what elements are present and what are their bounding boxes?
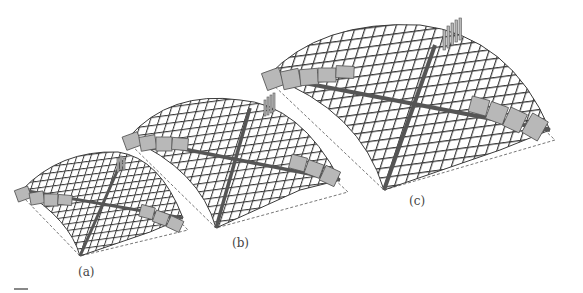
panel-label-a: (a) — [78, 265, 95, 279]
caption-fragment — [14, 288, 28, 290]
vault-figure — [0, 0, 583, 293]
panel-label-c: (c) — [409, 194, 425, 208]
panel-label-b: (b) — [232, 236, 249, 250]
vault-model-a — [14, 152, 188, 256]
rib-fins-a — [117, 156, 125, 172]
